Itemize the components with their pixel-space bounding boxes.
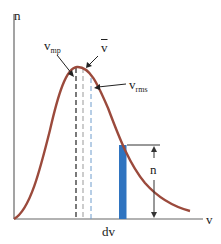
interval-label: dv <box>102 225 115 238</box>
label-vmp: vmp <box>44 39 61 55</box>
distribution-curve <box>14 67 190 219</box>
arrow-vmp <box>57 55 72 74</box>
distribution-diagram <box>0 0 221 244</box>
interval-bar <box>119 145 127 219</box>
n-arrowhead-up <box>151 146 157 152</box>
label-vrms: vrms <box>129 78 148 94</box>
n-arrowhead-down <box>151 212 157 218</box>
bar-height-label: n <box>150 163 157 176</box>
label-vmean: v <box>101 41 108 54</box>
x-axis-label: v <box>206 213 213 226</box>
y-axis-label: n <box>14 9 21 22</box>
arrow-vrms <box>98 84 126 87</box>
arrow-vmean <box>89 56 98 65</box>
